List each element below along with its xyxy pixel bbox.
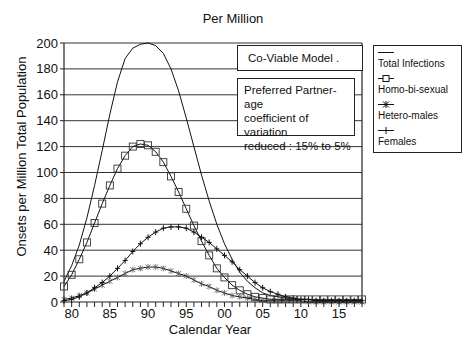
series-line [64,227,362,301]
x-tick-label: 00 [217,306,231,321]
asterisk-marker-icon [123,271,128,277]
y-tick-label: 20 [44,269,58,284]
plus-marker-icon [161,225,166,231]
asterisk-marker-icon [214,287,219,293]
line-icon [378,48,394,57]
asterisk-marker-icon [191,277,196,283]
x-tick-label: 95 [179,306,193,321]
x-tick-label: 90 [141,306,155,321]
x-tick-label: 10 [294,306,308,321]
plus-marker-icon [184,225,189,231]
y-tick-label: 200 [36,36,58,51]
annotation-line: reduced : 15% to 5% [244,139,354,153]
legend-label: Total Infections [378,58,445,69]
asterisk-marker-icon [222,290,227,296]
square-marker-icon [378,74,394,83]
asterisk-marker-icon [168,268,173,274]
y-tick-label: 180 [36,61,58,76]
y-tick-label: 100 [36,165,58,180]
y-tick-label: 80 [44,191,58,206]
plus-marker-icon [199,234,204,240]
legend-item-homo: Homo-bi-sexual [374,72,461,98]
y-tick-label: 160 [36,87,58,102]
annotation-line: Preferred Partner-age [244,83,354,111]
plus-marker-icon [153,229,158,235]
asterisk-marker-icon [107,278,112,284]
x-axis-label: Calendar Year [150,322,270,337]
asterisk-marker-icon [176,271,181,277]
y-tick-label: 0 [51,295,58,310]
legend-item-females: Females [374,124,461,150]
asterisk-marker-icon [378,100,394,109]
legend-item-hetero: Hetero-males [374,98,461,124]
x-tick-label: 80 [64,306,78,321]
chart-title: Per Million [0,11,466,26]
x-tick-label: 15 [332,306,346,321]
plus-marker-icon [268,289,273,295]
y-tick-label: 120 [36,139,58,154]
x-tick-label: 85 [103,306,117,321]
plus-marker-icon [260,285,265,291]
legend: Total Infections Homo-bi-sexual Hetero-m… [373,45,462,153]
annotation-line: coefficient of variation [244,111,354,139]
asterisk-marker-icon [207,283,212,289]
y-axis-label: Onsets per Million Total Population [14,87,29,257]
legend-label: Homo-bi-sexual [378,84,448,95]
y-tick-label: 60 [44,217,58,232]
plus-marker-icon [378,126,394,135]
asterisk-marker-icon [199,281,204,287]
plus-marker-icon [62,298,67,304]
model-annotation: Co-Viable Model . [237,45,363,71]
legend-label: Hetero-males [378,110,438,121]
legend-item-total: Total Infections [374,46,461,72]
asterisk-marker-icon [115,274,120,280]
parameter-annotation: Preferred Partner-age coefficient of var… [237,78,355,136]
y-tick-label: 40 [44,243,58,258]
legend-label: Females [378,136,416,147]
y-tick-label: 140 [36,113,58,128]
x-tick-label: 05 [255,306,269,321]
